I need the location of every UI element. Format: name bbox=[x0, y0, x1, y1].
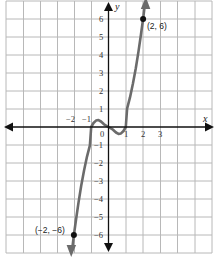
x-tick-label: 0 bbox=[100, 129, 104, 139]
y-tick-label: −1 bbox=[94, 140, 103, 150]
y-axis-down-arrow-icon bbox=[104, 243, 113, 252]
point-marker-2-6 bbox=[140, 16, 146, 22]
y-tick-label: −3 bbox=[94, 176, 103, 186]
y-tick-label: 3 bbox=[99, 68, 103, 78]
x-tick-label: −1 bbox=[82, 114, 91, 124]
x-tick-label: 2 bbox=[141, 129, 145, 139]
x-tick-label: 3 bbox=[158, 129, 162, 139]
point-label-2-6: (2, 6) bbox=[147, 21, 167, 31]
x-axis-label: x bbox=[202, 113, 208, 124]
y-axis-label: y bbox=[114, 1, 120, 12]
x-axis-left-arrow-icon bbox=[4, 123, 13, 132]
cubic-function-graph: x y −2 −1 0 1 2 3 6 5 4 3 2 1 −1 −2 −3 −… bbox=[0, 0, 216, 257]
x-tick-label: 1 bbox=[124, 129, 128, 139]
y-tick-label: 6 bbox=[99, 14, 103, 24]
x-tick-label: −2 bbox=[66, 114, 75, 124]
y-tick-label: −2 bbox=[94, 158, 103, 168]
y-axis-up-arrow-icon bbox=[104, 2, 113, 11]
point-label-neg2-neg6: (−2, −6) bbox=[35, 225, 65, 235]
y-tick-label: 1 bbox=[99, 104, 103, 114]
y-tick-label: −5 bbox=[94, 212, 103, 222]
y-tick-label: 2 bbox=[99, 86, 103, 96]
y-tick-label: 5 bbox=[99, 32, 103, 42]
y-tick-label: −6 bbox=[94, 230, 103, 240]
y-tick-label: −4 bbox=[94, 194, 104, 204]
axes bbox=[4, 2, 214, 252]
point-marker-neg2-neg6 bbox=[71, 232, 77, 238]
